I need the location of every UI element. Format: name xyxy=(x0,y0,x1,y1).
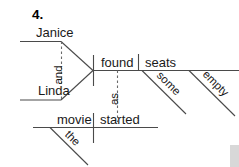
word-janice: Janice xyxy=(36,25,74,40)
page-edge-artifact xyxy=(230,145,239,167)
word-the: the xyxy=(63,128,83,148)
word-empty: empty xyxy=(201,68,232,99)
janice-connector-diagonal xyxy=(61,42,93,71)
word-some: some xyxy=(155,69,183,97)
word-started: started xyxy=(100,112,140,127)
sentence-diagram-container: 4. Janice Linda and found seats some emp… xyxy=(0,0,239,167)
word-as: as xyxy=(108,93,120,105)
word-movie: movie xyxy=(57,112,92,127)
word-found: found xyxy=(101,55,134,70)
exercise-number-label: 4. xyxy=(32,7,43,22)
word-seats: seats xyxy=(145,55,177,70)
sentence-diagram-canvas: 4. Janice Linda and found seats some emp… xyxy=(0,0,239,167)
word-and: and xyxy=(52,65,64,84)
